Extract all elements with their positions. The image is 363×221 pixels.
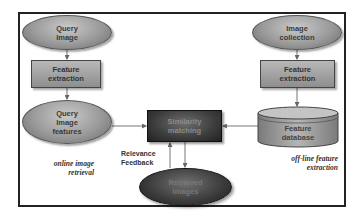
query-image-features-node: Query Image features [22,100,112,144]
offline-extraction-label: off-line feature extraction [268,154,338,172]
feature-extraction-right-label: Feature extraction [273,65,323,83]
similarity-matching-node: Similarity matching [147,110,222,142]
similarity-matching-label: Similarity matching [160,117,210,135]
query-image-label: Query Image [47,24,87,42]
query-image-features-label: Query Image features [47,109,87,136]
image-collection-node: Image collection [252,15,342,50]
feature-database-label: Feature database [258,124,338,142]
retrieved-images-label: Retrieved Images [163,178,208,196]
relevance-feedback-label: Relevance Feedback [121,150,165,167]
image-collection-label: Image collection [275,24,320,42]
online-retrieval-label: online image retrieval [34,159,94,177]
retrieved-images-node: Retrieved Images [139,168,232,206]
query-image-node: Query Image [22,15,112,50]
feature-extraction-right-node: Feature extraction [260,60,335,88]
feature-extraction-left-node: Feature extraction [31,60,101,88]
feature-extraction-left-label: Feature extraction [41,65,91,83]
